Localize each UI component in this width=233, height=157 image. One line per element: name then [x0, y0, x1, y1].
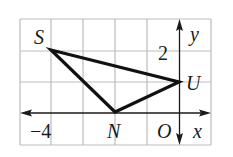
coordinate-plane: S U N y x O −4 2 — [0, 0, 233, 157]
y-axis-label: y — [188, 23, 199, 46]
point-label-n: N — [106, 120, 122, 142]
tick-label-y-2: 2 — [158, 42, 168, 64]
origin-label: O — [157, 120, 171, 142]
tick-label-x-neg4: −4 — [30, 120, 51, 142]
x-axis-label: x — [192, 120, 202, 142]
point-label-s: S — [34, 26, 44, 48]
point-label-u: U — [186, 72, 202, 94]
